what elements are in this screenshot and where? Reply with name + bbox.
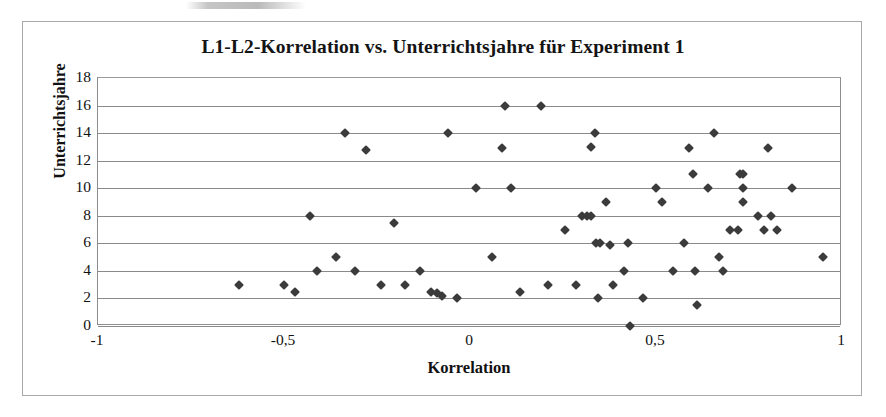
scatter-point (560, 225, 570, 235)
scatter-point (471, 183, 481, 193)
gridline (98, 188, 840, 189)
scatter-point (376, 280, 386, 290)
scatter-point (331, 252, 341, 262)
scatter-point (763, 143, 773, 153)
gridline (98, 106, 840, 107)
scan-artifact (186, 2, 306, 9)
scatter-point (638, 293, 648, 303)
scatter-point (738, 183, 748, 193)
scatter-point (590, 128, 600, 138)
scatter-point (234, 280, 244, 290)
x-axis-title: Korrelation (97, 358, 841, 378)
scatter-point (619, 266, 629, 276)
scatter-point (506, 183, 516, 193)
x-axis-tick-label: -0,5 (271, 331, 296, 349)
scatter-point (586, 142, 596, 152)
scatter-point (415, 266, 425, 276)
scatter-point (692, 300, 702, 310)
gridline (98, 133, 840, 134)
x-axis-tick-labels: -1-0,500,51 (97, 331, 841, 353)
scatter-point (543, 280, 553, 290)
gridline (98, 326, 840, 327)
scatter-point (703, 183, 713, 193)
scatter-point (766, 211, 776, 221)
scatter-point (690, 266, 700, 276)
scatter-point (305, 211, 315, 221)
scatter-point (685, 143, 695, 153)
scatter-point (500, 101, 510, 111)
scatter-point (772, 225, 782, 235)
scatter-point (361, 145, 371, 155)
y-axis-title: Unterrichtsjahre (51, 6, 69, 236)
gridline (98, 271, 840, 272)
y-axis-tick-label: 8 (83, 206, 91, 224)
scatter-point (536, 101, 546, 111)
scatter-point (709, 128, 719, 138)
scatter-point (389, 218, 399, 228)
scatter-point (593, 293, 603, 303)
scatter-point (753, 211, 763, 221)
scatter-point (733, 225, 743, 235)
scatter-point (608, 280, 618, 290)
chart-frame: L1-L2-Korrelation vs. Unterrichtsjahre f… (22, 21, 862, 396)
scatter-point (515, 287, 525, 297)
plot-area (97, 77, 841, 325)
y-axis-tick-label: 10 (76, 178, 92, 196)
scatter-point (718, 266, 728, 276)
x-axis-tick-label: 0,5 (645, 331, 664, 349)
scatter-point (487, 252, 497, 262)
scatter-point (605, 240, 615, 250)
chart-title: L1-L2-Korrelation vs. Unterrichtsjahre f… (23, 36, 863, 58)
gridline (98, 243, 840, 244)
scatter-point (290, 287, 300, 297)
scatter-point (759, 225, 769, 235)
gridline (98, 216, 840, 217)
x-axis-tick-label: 1 (837, 331, 845, 349)
scatter-point (313, 266, 323, 276)
gridline (98, 298, 840, 299)
scatter-point (625, 321, 635, 331)
y-axis-tick-label: 6 (83, 233, 91, 251)
gridline (98, 161, 840, 162)
scatter-point (623, 238, 633, 248)
scatter-point (651, 183, 661, 193)
scatter-point (668, 266, 678, 276)
y-axis-tick-label: 2 (83, 288, 91, 306)
y-axis-tick-label: 18 (76, 68, 92, 86)
y-axis-tick-label: 14 (76, 123, 92, 141)
scatter-point (340, 128, 350, 138)
scatter-point (571, 280, 581, 290)
scatter-point (787, 183, 797, 193)
y-axis-tick-label: 4 (83, 261, 91, 279)
scatter-point (714, 252, 724, 262)
scatter-point (657, 197, 667, 207)
scatter-point (443, 128, 453, 138)
scatter-point (688, 169, 698, 179)
y-axis-tick-label: 12 (76, 151, 92, 169)
scatter-point (679, 238, 689, 248)
scatter-point (601, 197, 611, 207)
scatter-point (738, 197, 748, 207)
scatter-point (350, 266, 360, 276)
y-axis-tick-label: 16 (76, 96, 92, 114)
scatter-point (497, 143, 507, 153)
scatter-point (818, 252, 828, 262)
scatter-point (279, 280, 289, 290)
x-axis-tick-label: -1 (91, 331, 104, 349)
scatter-point (452, 293, 462, 303)
scatter-point (400, 280, 410, 290)
x-axis-tick-label: 0 (465, 331, 473, 349)
